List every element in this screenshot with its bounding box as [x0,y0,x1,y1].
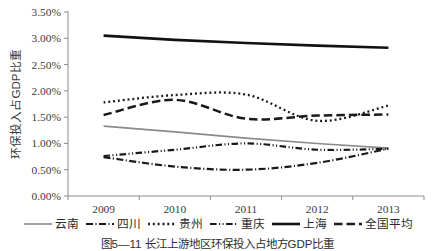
y-tick-label: 0.50% [32,164,62,176]
line-chart: 0.00%0.50%1.00%1.50%2.00%2.50%3.00%3.50%… [0,0,435,215]
y-tick-label: 2.50% [32,59,62,71]
y-axis-label: 环保投入占GDP比重 [9,49,22,158]
y-tick-label: 2.00% [32,85,62,97]
y-tick-label: 1.00% [32,137,62,149]
series-line-shanghai [104,36,389,48]
legend-item-yunnan[interactable]: 云南 [23,218,79,230]
legend-label-chongqing: 重庆 [241,218,265,230]
legend-key-guizhou-icon [147,219,177,229]
legend-key-sichuan-icon [85,219,115,229]
legend-item-chongqing[interactable]: 重庆 [209,218,265,230]
legend-key-chongqing-icon [209,219,239,229]
legend-label-sichuan: 四川 [117,218,141,230]
series-line-guizhou [104,92,389,121]
legend-key-yunnan-icon [23,219,53,229]
figure-caption: 图5—11 长江上游地区环保投入占地方GDP比重 [0,235,435,251]
series-line-national-average [104,100,389,120]
legend-key-shanghai-icon [271,219,301,229]
legend-label-national-average: 全国平均 [365,218,413,230]
legend-label-guizhou: 贵州 [179,218,203,230]
series-line-sichuan [104,149,389,170]
legend-label-shanghai: 上海 [303,218,327,230]
y-tick-label: 0.00% [32,190,62,202]
chart-axes [68,11,424,196]
chart-plot-area: 0.00%0.50%1.00%1.50%2.00%2.50%3.00%3.50%… [0,0,435,215]
legend-item-national-average[interactable]: 全国平均 [333,218,413,230]
legend-key-national-average-icon [333,219,363,229]
legend-item-guizhou[interactable]: 贵州 [147,218,203,230]
y-tick-label: 1.50% [32,111,62,123]
legend-item-sichuan[interactable]: 四川 [85,218,141,230]
chart-legend: 云南四川贵州重庆上海全国平均 [0,214,435,234]
legend-label-yunnan: 云南 [55,218,79,230]
series-line-yunnan [104,126,389,148]
legend-item-shanghai[interactable]: 上海 [271,218,327,230]
y-tick-label: 3.00% [32,32,62,44]
y-tick-label: 3.50% [32,6,62,18]
